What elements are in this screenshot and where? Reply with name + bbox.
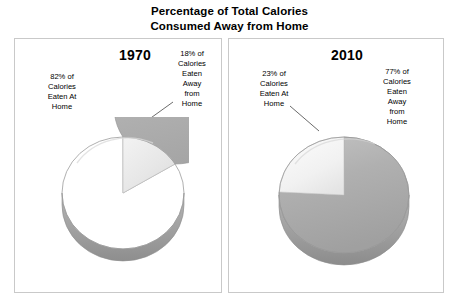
callout-1970-at-home-line-1: 82% of bbox=[31, 72, 93, 82]
chart-title-1970: 1970 bbox=[99, 47, 171, 63]
page-title-line-1: Percentage of Total Calories bbox=[0, 4, 459, 19]
pie-chart-1970 bbox=[57, 117, 189, 281]
page-title: Percentage of Total Calories Consumed Aw… bbox=[0, 4, 459, 34]
callout-2010-away-line-4: Away bbox=[371, 97, 423, 107]
pie-chart-2010 bbox=[273, 115, 415, 281]
callout-1970-at-home-line-4: Home bbox=[31, 102, 93, 112]
callout-1970-away-line-4: Away bbox=[167, 79, 217, 89]
callout-1970-away-line-1: 18% of bbox=[167, 49, 217, 59]
callout-2010-away-line-3: Eaten bbox=[371, 87, 423, 97]
callout-2010-at-home-line-1: 23% of bbox=[243, 69, 305, 79]
callout-2010-away-line-2: Calories bbox=[371, 77, 423, 87]
callout-1970-away-line-3: Eaten bbox=[167, 69, 217, 79]
callout-1970-at-home-line-3: Eaten At bbox=[31, 92, 93, 102]
callout-1970-at-home-line-2: Calories bbox=[31, 82, 93, 92]
callout-1970-away-line-2: Calories bbox=[167, 59, 217, 69]
callout-1970-at-home: 82% of Calories Eaten At Home bbox=[31, 72, 93, 112]
chart-title-2010: 2010 bbox=[307, 47, 387, 63]
callout-1970-away-line-5: from bbox=[167, 89, 217, 99]
chart-panel-2010: 2010 23% of Calories Eaten At Home 77% o… bbox=[228, 38, 444, 293]
callout-2010-at-home: 23% of Calories Eaten At Home bbox=[243, 69, 305, 109]
chart-panel-1970: 1970 82% of Calories Eaten At Home 18% o… bbox=[14, 38, 222, 293]
page-title-line-2: Consumed Away from Home bbox=[0, 19, 459, 34]
callout-1970-away-from-home: 18% of Calories Eaten Away from Home bbox=[167, 49, 217, 109]
callout-2010-at-home-line-3: Eaten At bbox=[243, 89, 305, 99]
callout-2010-at-home-line-2: Calories bbox=[243, 79, 305, 89]
callout-2010-away-line-1: 77% of bbox=[371, 67, 423, 77]
